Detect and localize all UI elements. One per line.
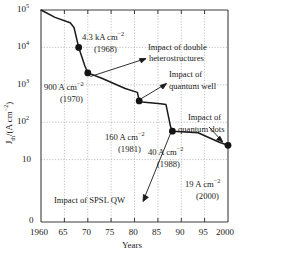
xtick-label-1985: 85 [152, 228, 161, 237]
y-axis-units-exponent: −2 [2, 105, 9, 112]
annot-spsl-qw-line1: Impact of SPSL QW [54, 196, 125, 205]
y-axis-title-text: Jth/(A cm−2) [4, 102, 14, 145]
data-label-19-a-year: (2000) [196, 192, 219, 201]
xtick-label-1965: 65 [59, 228, 68, 237]
ytick-label-0: 0 [29, 216, 34, 225]
xtick-label-1980: 80 [129, 228, 138, 237]
data-label-900-a-text: 900 A cm [44, 82, 77, 92]
ytick-exp-1e5: 5 [26, 2, 29, 9]
annot-quantum-dots-line2: quantum dots [178, 125, 225, 134]
xtick-label-1970: 70 [82, 228, 91, 237]
data-label-19-a-value: 19 A cm−2 [185, 180, 220, 189]
y-axis-units-tail: ) [4, 102, 14, 105]
data-label-4-3-ka-text: 4.3 kA cm [82, 32, 118, 42]
y-axis-symbol: J [4, 141, 14, 145]
annot-quantum-well-line2: quantum well [169, 82, 216, 91]
annot-quantum-well-line1: Impact of [169, 70, 202, 79]
x-axis-title: Years [122, 241, 142, 250]
data-label-160-a-value: 160 A cm−2 [105, 133, 145, 142]
annot-quantum-dots-line1: Impact of [188, 113, 221, 122]
data-label-4-3-ka-value: 4.3 kA cm−2 [82, 33, 124, 42]
marker-1968 [75, 44, 82, 51]
data-label-40-a-text: 40 A cm [148, 147, 177, 157]
marker-1970 [84, 70, 91, 77]
data-label-40-a-year: (1988) [157, 160, 180, 169]
xtick-label-1975: 75 [105, 228, 114, 237]
figure-container: 105 104 103 102 10 0 Jth/(A cm−2) 1960 6… [0, 0, 282, 266]
data-label-900-a-value: 900 A cm−2 [44, 83, 84, 92]
data-label-160-a-year: (1981) [118, 145, 141, 154]
ytick-label-1e2: 102 [17, 117, 29, 126]
ytick-label-1e3: 103 [17, 80, 29, 89]
data-label-40-a-value: 40 A cm−2 [148, 148, 183, 157]
data-label-4-3-ka-exp: −2 [118, 30, 125, 37]
xtick-label-1960: 1960 [30, 228, 48, 237]
data-label-4-3-ka-year: (1968) [94, 45, 117, 54]
ytick-label-1e5: 105 [17, 5, 29, 14]
data-label-900-a-exp: −2 [77, 80, 84, 87]
data-label-900-a-year: (1970) [60, 95, 83, 104]
annot-double-heterostructures-line2: heterostructures [149, 54, 204, 63]
data-label-160-a-text: 160 A cm [105, 132, 138, 142]
xtick-label-1995: 95 [199, 228, 208, 237]
ytick-label-10: 10 [22, 155, 31, 164]
xtick-label-2000: 2000 [216, 228, 234, 237]
data-label-19-a-exp: −2 [214, 177, 221, 184]
ytick-exp-1e2: 2 [26, 114, 29, 121]
y-axis-subscript: th [9, 136, 16, 141]
data-label-160-a-exp: −2 [138, 130, 145, 137]
y-axis-title: Jth/(A cm−2) [2, 78, 16, 168]
ytick-exp-1e3: 3 [26, 77, 29, 84]
data-label-40-a-exp: −2 [177, 145, 184, 152]
y-axis-units: /(A cm [4, 111, 14, 136]
ytick-label-1e4: 104 [17, 42, 29, 51]
xtick-label-1990: 90 [176, 228, 185, 237]
marker-2000 [225, 142, 232, 149]
ytick-exp-1e4: 4 [26, 39, 29, 46]
annot-double-heterostructures-line1: Impact of double [148, 43, 207, 52]
data-label-19-a-text: 19 A cm [185, 179, 214, 189]
